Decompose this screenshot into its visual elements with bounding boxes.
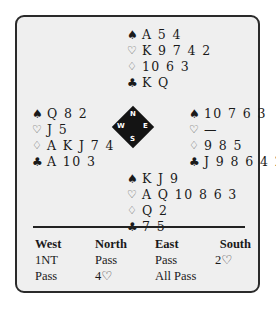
diamond-icon: ♢: [189, 138, 204, 154]
divider-line: [33, 226, 245, 228]
auction-header-north: North: [95, 236, 155, 252]
auction-bid: [215, 268, 251, 284]
diamond-icon: ♢: [32, 138, 47, 154]
east-spades: ♠10 7 6 3: [189, 106, 276, 122]
hand-west: ♠Q 8 2 ♡J 5 ♢A K J 7 4 ♣A 10 3: [32, 106, 115, 170]
compass-diamond: N W E S: [111, 105, 155, 149]
auction-header-east: East: [155, 236, 215, 252]
heart-icon: ♡: [32, 122, 47, 138]
auction-row: Pass 4♡ All Pass: [35, 268, 251, 284]
diamond-icon: ♢: [127, 59, 142, 75]
auction-bid: Pass: [155, 252, 215, 268]
auction-header-west: West: [35, 236, 95, 252]
spade-icon: ♠: [189, 106, 204, 122]
compass-west-label: W: [117, 123, 125, 130]
hand-north: ♠A 5 4 ♡K 9 7 4 2 ♢10 6 3 ♣K Q: [127, 27, 212, 91]
spade-icon: ♠: [127, 27, 142, 43]
heart-icon: ♡: [127, 43, 142, 59]
east-hearts: ♡—: [189, 122, 276, 138]
west-diamonds: ♢A K J 7 4: [32, 138, 115, 154]
club-icon: ♣: [189, 154, 204, 170]
north-clubs: ♣K Q: [127, 75, 212, 91]
auction-row: 1NT Pass Pass 2♡: [35, 252, 251, 268]
auction-table: West North East South 1NT Pass Pass 2♡ P…: [35, 236, 251, 284]
compass-east-label: E: [143, 123, 148, 130]
auction-bid: 4♡: [95, 268, 155, 284]
compass-south-label: S: [130, 136, 135, 143]
auction-bid: All Pass: [155, 268, 215, 284]
auction-bid: 2♡: [215, 252, 251, 268]
south-hearts: ♡A Q 10 8 6 3: [127, 187, 238, 203]
club-icon: ♣: [32, 154, 47, 170]
south-diamonds: ♢Q 2: [127, 203, 238, 219]
east-clubs: ♣J 9 8 6 4 2: [189, 154, 276, 170]
west-spades: ♠Q 8 2: [32, 106, 115, 122]
compass-north-label: N: [130, 111, 136, 118]
diamond-icon: ♢: [127, 203, 142, 219]
north-spades: ♠A 5 4: [127, 27, 212, 43]
club-icon: ♣: [127, 75, 142, 91]
auction-bid: Pass: [35, 268, 95, 284]
hand-east: ♠10 7 6 3 ♡— ♢9 8 5 ♣J 9 8 6 4 2: [189, 106, 276, 170]
auction-header-row: West North East South: [35, 236, 251, 252]
north-hearts: ♡K 9 7 4 2: [127, 43, 212, 59]
north-diamonds: ♢10 6 3: [127, 59, 212, 75]
heart-icon: ♡: [127, 187, 142, 203]
spade-icon: ♠: [127, 171, 142, 187]
auction-header-south: South: [215, 236, 251, 252]
heart-icon: ♡: [189, 122, 204, 138]
east-diamonds: ♢9 8 5: [189, 138, 276, 154]
west-clubs: ♣A 10 3: [32, 154, 115, 170]
spade-icon: ♠: [32, 106, 47, 122]
south-spades: ♠K J 9: [127, 171, 238, 187]
west-hearts: ♡J 5: [32, 122, 115, 138]
auction-bid: 1NT: [35, 252, 95, 268]
auction-bid: Pass: [95, 252, 155, 268]
bridge-deal-diagram: ♠A 5 4 ♡K 9 7 4 2 ♢10 6 3 ♣K Q ♠Q 8 2 ♡J…: [15, 15, 260, 293]
